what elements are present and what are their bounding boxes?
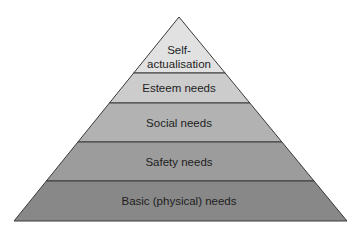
pyramid-layer-social-needs: Social needs	[78, 103, 282, 142]
layer-label: Esteem needs	[142, 82, 216, 94]
pyramid-layer-self-actualisation: Self-actualisation	[134, 17, 225, 73]
layer-label: actualisation	[147, 58, 211, 70]
layer-label: Social needs	[146, 117, 212, 129]
needs-pyramid: Self-actualisationEsteem needsSocial nee…	[0, 0, 358, 231]
pyramid-layer-basic-needs: Basic (physical) needs	[14, 181, 347, 221]
layer-label: Basic (physical) needs	[121, 195, 236, 207]
pyramid-layer-esteem-needs: Esteem needs	[109, 73, 249, 103]
pyramid-layer-safety-needs: Safety needs	[46, 142, 314, 181]
layer-label: Self-	[167, 44, 191, 56]
layer-label: Safety needs	[145, 156, 212, 168]
